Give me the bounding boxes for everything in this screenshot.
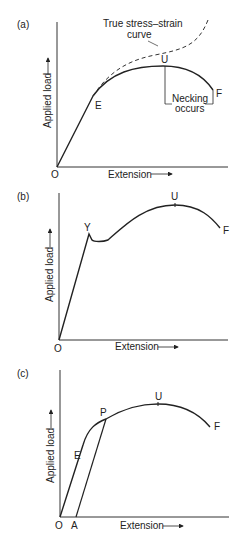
point-P: P — [100, 407, 107, 418]
point-F: F — [214, 421, 220, 432]
origin-label: O — [51, 169, 59, 180]
point-F: F — [216, 88, 222, 99]
origin-label: O — [54, 343, 62, 354]
origin-label: O — [55, 520, 63, 531]
panel-b: (b) O Extension Applied load Y U F — [17, 191, 229, 354]
point-U: U — [161, 54, 168, 65]
panel-c-label: (c) — [17, 368, 29, 379]
true-curve-annotation: True stress–strain — [103, 18, 183, 29]
point-Y: Y — [84, 222, 91, 233]
annotation-leader — [148, 41, 158, 46]
point-E: E — [74, 450, 81, 461]
point-U: U — [155, 391, 162, 402]
x-axis-label: Extension — [108, 169, 152, 180]
point-E: E — [95, 100, 102, 111]
panel-c: (c) O A Extension Applied load E P U F — [17, 368, 229, 531]
y-axis-label: Applied load — [45, 428, 56, 483]
unloading-line — [76, 419, 106, 517]
y-axis-label: Applied load — [44, 247, 55, 302]
load-extension-curve — [60, 404, 210, 517]
point-F: F — [223, 225, 229, 236]
panel-a: (a) O Extension Applied load True stress… — [17, 18, 228, 180]
figure: (a) O Extension Applied load True stress… — [0, 0, 238, 542]
point-A: A — [71, 520, 78, 531]
x-axis-label: Extension — [115, 341, 159, 352]
true-curve-annotation-2: curve — [127, 29, 152, 40]
panel-b-label: (b) — [17, 191, 29, 202]
load-extension-curve — [57, 66, 213, 167]
point-U: U — [171, 191, 178, 202]
y-axis-label: Applied load — [42, 73, 53, 128]
panel-a-label: (a) — [17, 19, 29, 30]
x-axis-label: Extension — [120, 520, 164, 531]
necking-annotation-2: occurs — [175, 103, 204, 114]
